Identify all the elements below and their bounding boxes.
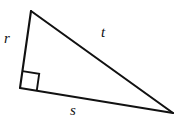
triangle-figure: r t s [0,0,181,126]
edge-s-line [20,88,173,113]
label-side-s: s [70,103,76,118]
edge-r-line [20,11,31,88]
triangle-drawing [0,0,181,126]
label-side-r: r [4,31,10,46]
label-side-t: t [101,25,105,40]
